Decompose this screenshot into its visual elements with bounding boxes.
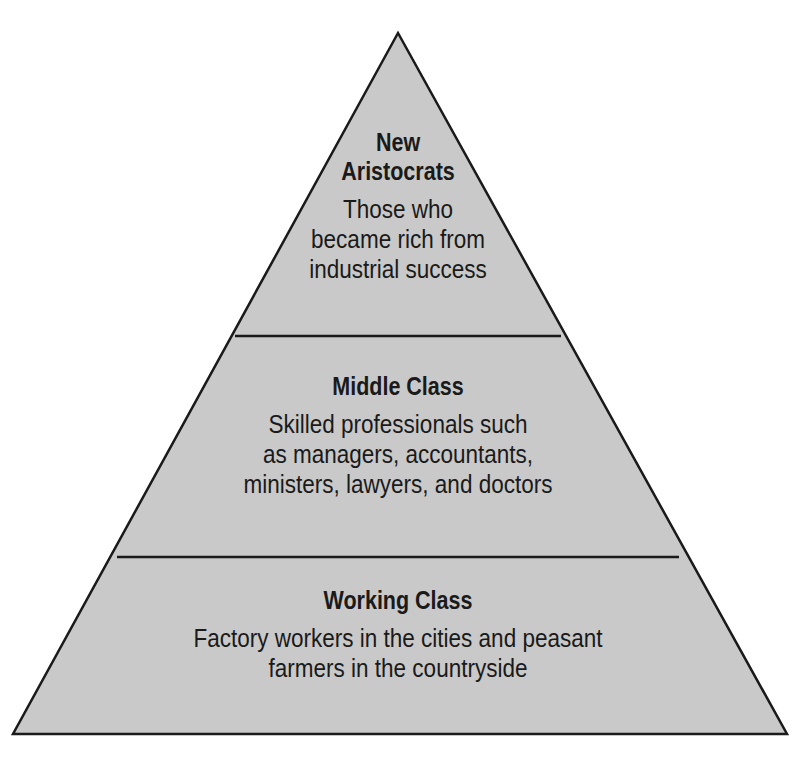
tier-description: Those who became rich from industrial su… [263,194,533,284]
tier-title: New Aristocrats [269,128,527,186]
tier-middle-middle-class: Middle Class Skilled professionals such … [148,372,648,499]
tier-title-line: Aristocrats [341,157,455,185]
tier-title: Middle Class [183,372,613,401]
tier-title: Working Class [123,586,673,615]
tier-bottom-working-class: Working Class Factory workers in the cit… [78,586,718,683]
tier-description: Skilled professionals such as managers, … [173,409,623,499]
tier-description: Factory workers in the cities and peasan… [110,623,686,683]
tier-title-line: New [376,128,420,156]
tier-top-new-aristocrats: New Aristocrats Those who became rich fr… [248,128,548,284]
